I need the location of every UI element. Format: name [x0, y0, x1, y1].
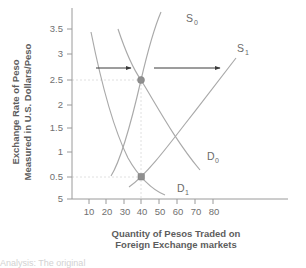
new-equilibrium-point	[138, 174, 145, 181]
x-tick-label-40: 40	[137, 206, 148, 217]
x-tick-label-30: 30	[120, 206, 131, 217]
y-tick-label-2.5: 2.5	[50, 74, 63, 85]
y-axis-title-line1: Exchange Rate of Peso	[10, 59, 21, 164]
x-tick-label-10: 10	[84, 206, 95, 217]
x-tick-label-50: 50	[155, 206, 166, 217]
y-tick-label-1: 1	[58, 146, 63, 157]
x-axis-title-line2: Foreign Exchange markets	[115, 239, 236, 250]
demand-curve-d0-label-sub: 0	[215, 157, 219, 164]
curves-group	[91, 12, 236, 195]
supply-curve-s0	[111, 12, 161, 176]
supply-curve-s1	[129, 58, 236, 187]
initial-equilibrium-point	[138, 77, 145, 84]
supply-curve-s0-label: S	[186, 12, 193, 24]
demand-curve-d0-label: D	[207, 150, 215, 162]
y-tick-label-3: 3	[58, 48, 63, 59]
supply-curve-s0-label-sub: 0	[194, 19, 198, 26]
y-axis-title: Exchange Rate of Peso Measured in U.S. D…	[10, 43, 33, 180]
x-tick-label-70: 70	[191, 206, 202, 217]
x-tick-label-20: 20	[102, 206, 113, 217]
x-tick-label-80: 80	[209, 206, 220, 217]
y-tick-label-0.5: 0.5	[50, 171, 63, 182]
curve-labels-group: S 0 S 1 D 0 D 1	[177, 12, 249, 196]
x-axis-title-line1: Quantity of Pesos Traded on	[112, 228, 241, 239]
x-axis-ticks: 10 20 30 40 50 60 70 80	[84, 199, 220, 217]
y-tick-label-1.5: 1.5	[50, 122, 63, 133]
demand-curve-d0	[118, 29, 200, 170]
supply-curve-s1-label: S	[237, 42, 244, 54]
supply-curve-s1-label-sub: 1	[245, 49, 249, 56]
y-axis-title-line2: Measured in U.S. Dollars/Peso	[22, 43, 33, 180]
y-axis-ticks: 3.5 3 2.5 2 1.5 1 0.5 5	[50, 23, 72, 204]
x-tick-label-60: 60	[173, 206, 184, 217]
chart-canvas: 3.5 3 2.5 2 1.5 1 0.5 5 10 20 30 40 50 6…	[0, 0, 306, 268]
y-tick-label-2: 2	[58, 99, 63, 110]
y-tick-label-3.5: 3.5	[50, 23, 63, 34]
demand-curve-d1-label-sub: 1	[185, 189, 189, 196]
demand-curve-d1-label: D	[177, 182, 185, 194]
x-axis-title: Quantity of Pesos Traded on Foreign Exch…	[112, 228, 241, 250]
exchange-rate-supply-demand-chart: 3.5 3 2.5 2 1.5 1 0.5 5 10 20 30 40 50 6…	[0, 0, 306, 268]
bottom-caption-strip: Analysis: The original	[0, 258, 306, 268]
y-tick-label-0: 5	[58, 193, 63, 204]
axes-group	[72, 8, 288, 199]
